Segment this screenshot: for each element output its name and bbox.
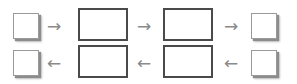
row1-large-box-2 bbox=[163, 8, 213, 41]
row2-arrow-left-icon-1: ← bbox=[44, 56, 64, 70]
row1-small-box-end bbox=[251, 13, 277, 39]
flow-diagram: → → → ← ← ← bbox=[0, 0, 297, 84]
row2-small-box-start bbox=[251, 50, 277, 76]
row2-large-box-1 bbox=[78, 45, 128, 78]
row1-large-box-1 bbox=[78, 8, 128, 41]
row1-small-box-start bbox=[13, 13, 39, 39]
row2-large-box-2 bbox=[163, 45, 213, 78]
row2-small-box-end bbox=[13, 50, 39, 76]
row1-arrow-right-icon-2: → bbox=[134, 19, 154, 33]
row2-arrow-left-icon-3: ← bbox=[221, 56, 241, 70]
row2-arrow-left-icon-2: ← bbox=[134, 56, 154, 70]
row1-arrow-right-icon-3: → bbox=[221, 19, 241, 33]
row1-arrow-right-icon-1: → bbox=[44, 19, 64, 33]
